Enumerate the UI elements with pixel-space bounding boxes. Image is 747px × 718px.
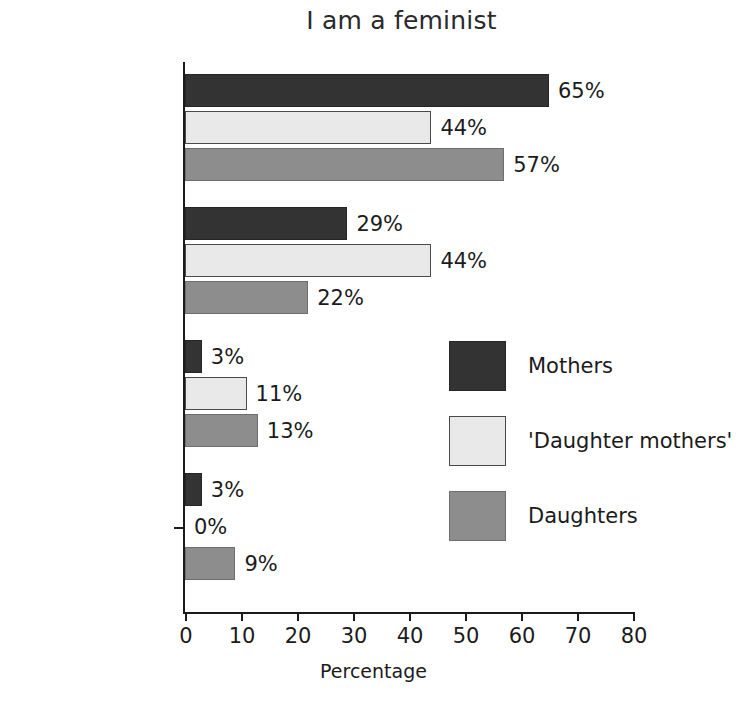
chart-title: I am a feminist [0, 6, 747, 35]
bar-value-label: 3% [211, 480, 244, 501]
bar-chart: I am a feminist 01020304050607080 65%44%… [0, 0, 747, 718]
x-axis-tick [521, 612, 523, 621]
bar [185, 377, 247, 410]
bar [185, 111, 431, 144]
bar-value-label: 9% [244, 554, 277, 575]
x-axis-tick [577, 612, 579, 621]
x-axis-line [183, 612, 633, 614]
x-axis-tick [241, 612, 243, 621]
bar [185, 547, 235, 580]
bar [185, 340, 202, 373]
legend-item: Mothers [449, 341, 613, 391]
legend-label: Daughters [528, 504, 638, 528]
legend-swatch [449, 416, 506, 466]
bar [185, 74, 549, 107]
x-axis-tick-label: 60 [502, 624, 542, 648]
x-axis-title: Percentage [0, 660, 747, 682]
legend-label: 'Daughter mothers' [528, 429, 732, 453]
y-axis-line [183, 62, 185, 612]
legend-label: Mothers [528, 354, 613, 378]
legend-item: 'Daughter mothers' [449, 416, 732, 466]
bar [185, 244, 431, 277]
legend-swatch [449, 341, 506, 391]
x-axis-tick-label: 10 [222, 624, 262, 648]
x-axis-tick [297, 612, 299, 621]
category-axis-tick [174, 527, 185, 529]
legend-swatch [449, 491, 506, 541]
bar [185, 281, 308, 314]
x-axis-tick-label: 30 [334, 624, 374, 648]
bar-value-label: 0% [194, 517, 227, 538]
bar-value-label: 3% [211, 347, 244, 368]
bar-value-label: 44% [440, 251, 487, 272]
legend-item: Daughters [449, 491, 638, 541]
x-axis-tick [185, 612, 187, 621]
bar [185, 414, 258, 447]
x-axis-tick [465, 612, 467, 621]
x-axis-tick [409, 612, 411, 621]
bar [185, 148, 504, 181]
x-axis-tick-label: 50 [446, 624, 486, 648]
bar-value-label: 65% [558, 81, 605, 102]
x-axis-tick-label: 70 [558, 624, 598, 648]
bar-value-label: 57% [513, 155, 560, 176]
bar-value-label: 29% [356, 214, 403, 235]
x-axis-tick-label: 0 [166, 624, 206, 648]
bar [185, 207, 347, 240]
bar [185, 473, 202, 506]
bar-value-label: 11% [256, 384, 303, 405]
bar-value-label: 22% [317, 288, 364, 309]
bar-value-label: 13% [267, 421, 314, 442]
x-axis-tick-label: 80 [614, 624, 654, 648]
x-axis-tick-label: 20 [278, 624, 318, 648]
x-axis-tick [633, 612, 635, 621]
x-axis-tick [353, 612, 355, 621]
x-axis-tick-label: 40 [390, 624, 430, 648]
bar-value-label: 44% [440, 118, 487, 139]
